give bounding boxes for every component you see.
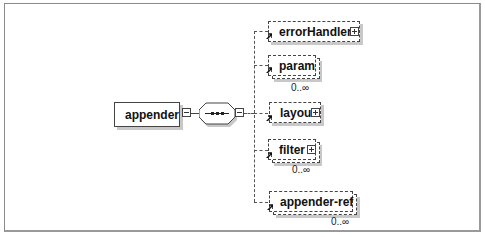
element-label: param — [279, 59, 315, 73]
reference-arrow-icon — [266, 152, 272, 158]
element-errorhandler[interactable]: errorHandler — [268, 21, 360, 42]
element-param[interactable]: param — [268, 55, 316, 76]
element-appender-ref[interactable]: appender-ref — [269, 191, 353, 212]
branch-connector — [254, 150, 268, 151]
element-label: appender — [125, 108, 179, 122]
occurrence-label: 0..∞ — [331, 216, 349, 227]
expand-icon[interactable] — [350, 27, 359, 36]
occurrence-label: 0..∞ — [291, 82, 309, 93]
branch-connector — [254, 202, 268, 203]
collapse-icon[interactable] — [235, 108, 244, 117]
reference-arrow-icon — [266, 115, 272, 121]
reference-arrow-icon — [267, 204, 273, 210]
element-label: filter — [279, 143, 305, 157]
branch-line — [254, 31, 255, 202]
expand-icon[interactable] — [307, 145, 316, 154]
connector-line — [244, 113, 254, 114]
collapse-icon[interactable] — [182, 108, 191, 117]
element-label: errorHandler — [279, 25, 352, 39]
branch-connector — [254, 65, 268, 66]
branch-connector — [254, 113, 268, 114]
branch-connector — [254, 31, 268, 32]
occurrence-label: 0..∞ — [292, 164, 310, 175]
expand-icon[interactable] — [311, 108, 320, 117]
reference-arrow-icon — [266, 33, 272, 39]
element-label: appender-ref — [280, 195, 353, 209]
element-appender[interactable]: appender — [114, 102, 180, 127]
reference-arrow-icon — [266, 67, 272, 73]
